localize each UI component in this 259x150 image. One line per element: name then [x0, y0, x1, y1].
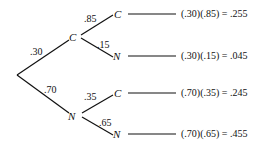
probability-tree-diagram: .30 .70 C N .85 .15 C N .35 .65 C N (.30…	[0, 0, 259, 150]
node-n-c: C	[114, 87, 122, 99]
prob-label-c-c: .85	[84, 13, 97, 24]
result-text-nn: (.70)(.65) = .455	[181, 128, 247, 140]
result-text-cc: (.30)(.85) = .255	[181, 8, 247, 20]
node-c-c: C	[114, 8, 122, 20]
node-n-n: N	[112, 128, 121, 140]
prob-label-root-c: .30	[30, 46, 43, 57]
prob-label-root-n: .70	[44, 84, 57, 95]
prob-label-c-n: .15	[97, 39, 110, 50]
result-text-nc: (.70)(.35) = .245	[181, 87, 247, 99]
node-n-level1: N	[67, 110, 76, 122]
node-c-level1: C	[69, 31, 77, 43]
branch-root-to-c	[17, 40, 69, 75]
branch-root-to-n	[17, 75, 69, 113]
prob-label-n-n: .65	[99, 117, 112, 128]
result-text-cn: (.30)(.15) = .045	[181, 50, 247, 62]
prob-label-n-c: .35	[84, 91, 97, 102]
node-c-n: N	[112, 50, 121, 62]
